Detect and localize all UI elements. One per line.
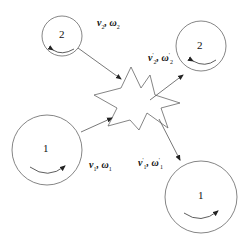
trajectory-1-out <box>159 119 180 160</box>
trajectory-2-out <box>150 75 183 100</box>
label-ball2-before: v2, ω2 <box>97 18 120 30</box>
ball-number: 1 <box>198 190 204 201</box>
label-ball1-after: v'1, ω'1 <box>138 157 163 170</box>
ball-number: 2 <box>59 29 65 40</box>
trajectory-2-in <box>78 48 121 79</box>
collision-diagram <box>0 0 249 243</box>
label-ball2-after: v'2, ω'2 <box>148 52 173 65</box>
rotation-arrow-icon <box>193 60 216 64</box>
rotation-arrow-icon <box>53 49 74 53</box>
rotation-arrow-icon <box>184 211 218 219</box>
ball-number: 1 <box>43 143 49 154</box>
trajectory-1-in <box>81 118 112 132</box>
rotation-arrow-icon <box>30 166 65 173</box>
ball-number: 2 <box>197 40 203 51</box>
label-ball1-before: v1, ω1 <box>89 160 112 172</box>
